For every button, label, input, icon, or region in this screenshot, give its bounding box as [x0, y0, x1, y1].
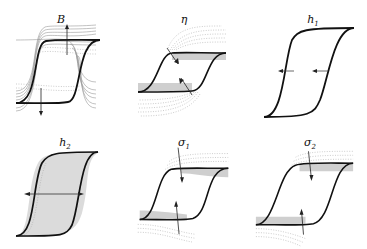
- main-loop-upper: [264, 28, 354, 117]
- hysteresis-plot-sigma2: [244, 125, 366, 249]
- panel-h1: h1: [244, 0, 366, 124]
- arrow-left-icon: [312, 69, 317, 73]
- panel-sigma1: σ1: [122, 125, 244, 249]
- arrow-down-icon: [180, 177, 184, 183]
- panel-eta: η: [122, 0, 244, 124]
- arrow-left-icon: [278, 69, 283, 73]
- hysteresis-plot-sigma1: [122, 125, 244, 249]
- hysteresis-plot-h2: [0, 125, 122, 249]
- arrow-down-icon: [39, 111, 43, 116]
- hysteresis-plot-b: [0, 0, 122, 124]
- arrow-up-icon: [174, 201, 178, 207]
- arrow-down-icon: [309, 175, 313, 181]
- hysteresis-plot-h1: [244, 0, 366, 124]
- panel-b: B: [0, 0, 122, 124]
- arrow-up-icon: [300, 209, 304, 215]
- panel-h2: h2: [0, 125, 122, 249]
- main-loop-lower: [256, 163, 353, 225]
- panel-sigma2: σ2: [244, 125, 366, 249]
- arrow-up-icon: [65, 24, 69, 29]
- arrow-left-icon: [24, 192, 30, 196]
- hysteresis-plot-eta: [122, 0, 244, 124]
- main-loop-upper: [256, 163, 353, 225]
